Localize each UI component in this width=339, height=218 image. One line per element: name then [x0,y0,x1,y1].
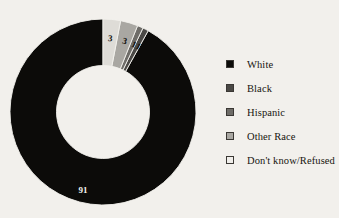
donut-chart-svg: 911133 [10,19,196,205]
legend-item[interactable]: Other Race [226,124,336,148]
legend-swatch-icon [226,156,234,164]
legend-item-label: Hispanic [247,107,285,118]
legend-item-label: Black [247,83,272,94]
legend-swatch-icon [226,84,234,92]
legend-item-label: Other Race [247,131,296,142]
donut-chart: 911133 [10,19,196,205]
legend-swatch-icon [226,108,234,116]
chart-page: 911133 WhiteBlackHispanicOther RaceDon't… [0,0,339,218]
legend-item[interactable]: Don't know/Refused [226,148,336,172]
legend-item-label: Don't know/Refused [247,155,335,166]
donut-slice-group [10,19,196,205]
legend-swatch-icon [226,132,234,140]
slice-data-label: 91 [78,185,88,195]
legend-swatch-icon [226,60,234,68]
legend-item[interactable]: Black [226,76,336,100]
legend-item[interactable]: White [226,52,336,76]
legend: WhiteBlackHispanicOther RaceDon't know/R… [226,52,336,172]
legend-item-label: White [247,59,273,70]
legend-item[interactable]: Hispanic [226,100,336,124]
